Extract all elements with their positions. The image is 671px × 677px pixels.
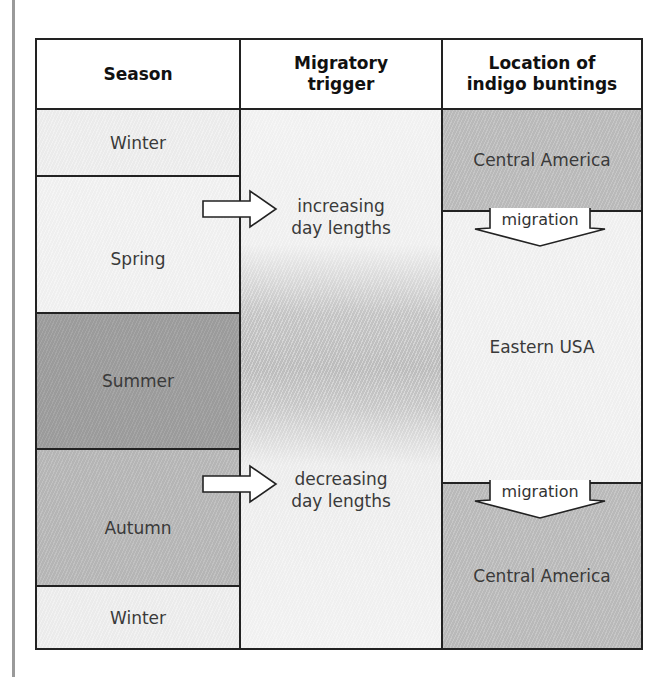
migration-label: migration (490, 210, 590, 229)
page-margin-bar (12, 0, 15, 677)
season-label: Winter (110, 133, 166, 153)
season-label: Summer (102, 371, 174, 391)
location-cell-central-america: Central America (443, 108, 641, 210)
season-cell-winter-2: Winter (37, 585, 241, 648)
header-location: Location of indigo buntings (443, 40, 641, 108)
header-season-text: Season (103, 64, 172, 85)
header-trigger: Migratory trigger (241, 40, 443, 108)
location-label: Eastern USA (489, 337, 594, 357)
migration-label: migration (490, 482, 590, 501)
right-arrow-icon (202, 465, 278, 503)
season-label: Winter (110, 608, 166, 628)
location-cell-eastern-usa: Eastern USA (443, 210, 641, 482)
header-trigger-line2: trigger (308, 74, 375, 95)
header-location-line2: indigo buntings (467, 74, 617, 95)
migration-table: Season Migratory trigger Location of ind… (35, 38, 643, 650)
right-arrow-icon (202, 190, 278, 228)
header-location-line1: Location of (489, 53, 596, 74)
location-label: Central America (473, 150, 610, 170)
season-cell-winter: Winter (37, 108, 241, 175)
season-label: Autumn (104, 518, 171, 538)
trigger-column: increasing day lengths decreasing day le… (241, 108, 443, 648)
header-season: Season (37, 40, 241, 108)
header-trigger-line1: Migratory (294, 53, 388, 74)
location-label: Central America (473, 566, 610, 586)
season-label: Spring (111, 249, 166, 269)
season-cell-summer: Summer (37, 312, 241, 448)
